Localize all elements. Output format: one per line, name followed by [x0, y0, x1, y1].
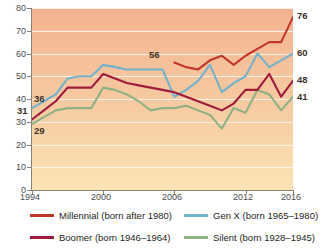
callout-silent-start: 29 — [34, 126, 45, 136]
y-tick-label: 60 — [4, 50, 26, 59]
callout-genx-end: 60 — [297, 48, 308, 58]
y-axis — [31, 8, 32, 191]
legend: Millennial (born after 1980) Gen X (born… — [0, 208, 334, 250]
y-tick-label: 70 — [4, 27, 26, 36]
legend-label-silent: Silent (born 1928–1945) — [213, 233, 315, 243]
y-tick — [27, 31, 31, 32]
y-tick — [27, 99, 31, 100]
y-tick-label: 10 — [4, 163, 26, 172]
y-tick — [27, 167, 31, 168]
y-tick — [27, 8, 31, 9]
y-tick — [27, 190, 31, 191]
legend-item-genx[interactable]: Gen X (born 1965–1980) — [184, 211, 318, 221]
legend-item-millennial[interactable]: Millennial (born after 1980) — [30, 211, 172, 221]
x-tick-label: 2012 — [233, 193, 253, 202]
x-tick-label: 1994 — [20, 193, 40, 202]
legend-item-silent[interactable]: Silent (born 1928–1945) — [184, 233, 315, 243]
legend-label-boomer: Boomer (born 1946–1964) — [59, 233, 170, 243]
series-lines — [32, 8, 293, 190]
legend-label-genx: Gen X (born 1965–1980) — [213, 211, 318, 221]
y-tick-label: 20 — [4, 141, 26, 150]
callout-millennial-end: 76 — [297, 11, 308, 21]
callout-silent-end: 41 — [297, 92, 308, 102]
legend-swatch-silent — [184, 236, 208, 239]
y-tick — [27, 122, 31, 123]
x-tick-label: 2000 — [91, 193, 111, 202]
y-tick-label: 80 — [4, 4, 26, 13]
y-tick-label: 40 — [4, 95, 26, 104]
legend-swatch-genx — [184, 214, 208, 217]
y-tick — [27, 54, 31, 55]
legend-swatch-boomer — [30, 236, 54, 239]
series-line-silent — [32, 88, 293, 129]
y-tick-label: 50 — [4, 72, 26, 81]
x-tick-label: 2006 — [162, 193, 182, 202]
legend-swatch-millennial — [30, 214, 54, 217]
legend-label-millennial: Millennial (born after 1980) — [59, 211, 172, 221]
series-line-genx — [32, 54, 293, 109]
legend-item-boomer[interactable]: Boomer (born 1946–1964) — [30, 233, 170, 243]
y-tick — [27, 145, 31, 146]
series-line-millennial — [174, 17, 293, 69]
callout-boomer-start: 31 — [17, 106, 28, 116]
plot-area — [32, 8, 293, 190]
generation-line-chart: 80 70 60 50 40 30 20 10 0 1994 2000 2006… — [0, 0, 334, 250]
callout-genx-start: 36 — [34, 94, 45, 104]
x-axis — [31, 190, 294, 191]
callout-millennial-start: 56 — [149, 50, 160, 60]
callout-boomer-end: 48 — [297, 75, 308, 85]
y-tick — [27, 76, 31, 77]
y-tick-label: 30 — [4, 118, 26, 127]
x-tick-label: 2016 — [281, 193, 301, 202]
